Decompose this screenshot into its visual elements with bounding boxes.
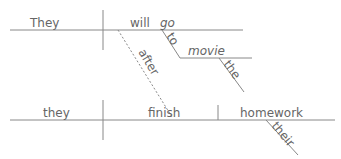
sub-verb: finish (148, 106, 180, 120)
article-word: the (221, 58, 244, 82)
sub-subject: they (43, 106, 70, 120)
object-modifier-word: their (269, 119, 298, 149)
connector-word: after (135, 46, 162, 78)
main-verb: go (160, 16, 175, 30)
prep-object: movie (188, 44, 225, 58)
main-subject: They (29, 16, 59, 30)
main-verb-aux: will (130, 16, 150, 30)
sub-object: homework (240, 106, 303, 120)
preposition-word: to (163, 30, 181, 48)
connector-line (118, 30, 172, 117)
sentence-diagram: They will go to movie the after they fin… (0, 0, 341, 159)
